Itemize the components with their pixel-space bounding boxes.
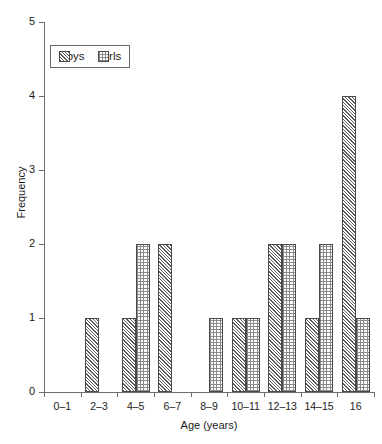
x-axis-tick-label: 10–11 <box>227 400 264 413</box>
x-axis-tick-label: 16 <box>337 400 374 413</box>
bar-girls-12-13 <box>282 244 296 392</box>
bar-boys-14-15 <box>305 318 319 392</box>
y-axis-tick-label: 1 <box>29 311 35 324</box>
y-axis-tick: 2 <box>39 244 44 245</box>
y-axis-title: Frequency <box>15 153 28 233</box>
y-axis-tick-label: 5 <box>29 15 35 28</box>
legend: Boys Girls <box>50 45 130 68</box>
x-axis-tick <box>374 392 375 397</box>
bar-girls-16 <box>356 318 370 392</box>
bar-girls-8-9 <box>209 318 223 392</box>
x-axis-tick <box>337 392 338 397</box>
y-axis-line <box>44 22 45 393</box>
x-axis-tick-label: 0–1 <box>44 400 81 413</box>
bar-boys-2-3 <box>85 318 99 392</box>
y-axis-tick-label: 2 <box>29 237 35 250</box>
x-axis-tick <box>191 392 192 397</box>
bar-boys-4-5 <box>122 318 136 392</box>
x-axis-tick-label: 12–13 <box>264 400 301 413</box>
bar-boys-10-11 <box>232 318 246 392</box>
y-axis-tick: 1 <box>39 318 44 319</box>
x-axis-tick <box>301 392 302 397</box>
y-axis-tick: 4 <box>39 96 44 97</box>
legend-entry-girls: Girls <box>98 50 122 63</box>
x-axis-tick-label: 6–7 <box>154 400 191 413</box>
x-axis-tick <box>81 392 82 397</box>
x-axis-line <box>44 392 374 393</box>
x-axis-tick <box>264 392 265 397</box>
x-axis-tick <box>44 392 45 397</box>
x-axis-tick <box>117 392 118 397</box>
x-axis-tick-label: 2–3 <box>81 400 118 413</box>
y-axis-tick: 5 <box>39 22 44 23</box>
bar-chart: 012345 Frequency 0–12–34–56–78–910–1112–… <box>0 0 382 444</box>
x-axis-title: Age (years) <box>44 419 374 432</box>
bar-girls-14-15 <box>319 244 333 392</box>
bar-boys-12-13 <box>268 244 282 392</box>
y-axis-tick: 3 <box>39 170 44 171</box>
y-axis-tick-label: 3 <box>29 163 35 176</box>
y-axis-tick-label: 0 <box>29 385 35 398</box>
bar-boys-6-7 <box>158 244 172 392</box>
bar-girls-10-11 <box>246 318 260 392</box>
bar-boys-16 <box>342 96 356 392</box>
legend-entry-boys: Boys <box>59 50 85 63</box>
x-axis-tick <box>154 392 155 397</box>
x-axis-tick-label: 14–15 <box>301 400 338 413</box>
bar-girls-4-5 <box>136 244 150 392</box>
x-axis-tick-label: 4–5 <box>117 400 154 413</box>
x-axis-tick-label: 8–9 <box>191 400 228 413</box>
y-axis-tick-label: 4 <box>29 89 35 102</box>
dotted-grid-swatch-icon <box>98 51 109 62</box>
diagonal-hatch-swatch-icon <box>59 51 70 62</box>
x-axis-tick <box>227 392 228 397</box>
